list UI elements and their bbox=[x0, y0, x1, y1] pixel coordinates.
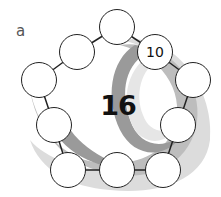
part-label: a bbox=[16, 22, 25, 40]
node-lower-left[interactable] bbox=[36, 107, 72, 143]
node-upper-left[interactable] bbox=[59, 34, 95, 70]
node-bottom-right[interactable] bbox=[145, 152, 181, 188]
node-right[interactable] bbox=[175, 62, 211, 98]
target-sum: 16 bbox=[100, 90, 136, 121]
node-left[interactable] bbox=[21, 62, 57, 98]
node-lower-right[interactable] bbox=[160, 107, 196, 143]
node-bottom-middle[interactable] bbox=[99, 152, 135, 188]
node-top[interactable] bbox=[99, 9, 135, 45]
node-bottom-left[interactable] bbox=[50, 152, 86, 188]
number-ring-diagram: a 10 16 bbox=[0, 0, 221, 197]
node-upper-right[interactable]: 10 bbox=[137, 34, 173, 70]
